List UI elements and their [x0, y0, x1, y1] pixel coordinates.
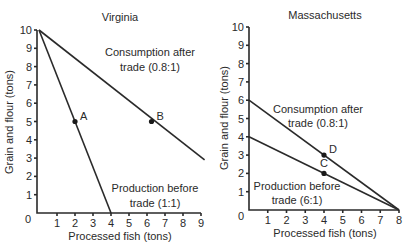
- point-label-a: A: [80, 110, 88, 122]
- y-tick-label: 6: [238, 94, 244, 106]
- y-tick-label: 4: [26, 134, 32, 146]
- origin-label: 0: [25, 213, 31, 225]
- origin-label: 0: [238, 210, 244, 222]
- production-label-line2: trade (1:1): [130, 197, 181, 209]
- chart-title-massachusetts: Massachusetts: [288, 9, 362, 21]
- x-tick-label: 4: [108, 217, 114, 229]
- point-b: [149, 119, 154, 124]
- production-label-line2: trade (6:1): [272, 194, 323, 206]
- y-tick-label: 3: [26, 152, 32, 164]
- x-tick-label: 6: [358, 214, 364, 226]
- y-tick-label: 9: [238, 39, 244, 51]
- x-axis-ticks: 12345678: [265, 210, 402, 226]
- x-tick-label: 9: [198, 217, 204, 229]
- production-label-line1: Production before: [112, 182, 199, 194]
- x-tick-label: 8: [396, 214, 402, 226]
- y-tick-label: 10: [232, 21, 244, 33]
- y-axis-title: Grain and flour (tons): [218, 66, 230, 170]
- y-tick-label: 9: [26, 42, 32, 54]
- x-axis-title: Processed fish (tons): [68, 230, 171, 242]
- x-tick-label: 7: [377, 214, 383, 226]
- x-axis-title: Processed fish (tons): [273, 227, 376, 239]
- point-label-b: B: [157, 110, 164, 122]
- consumption-label-line1: Consumption after: [273, 103, 363, 115]
- y-tick-label: 5: [26, 116, 32, 128]
- y-tick-label: 8: [26, 61, 32, 73]
- chart-canvas: Virginia 12345678910 123456789 AB Consum…: [0, 0, 414, 251]
- point-a: [72, 119, 77, 124]
- x-tick-label: 6: [144, 217, 150, 229]
- x-tick-label: 4: [321, 214, 327, 226]
- y-axis-ticks: 12345678910: [20, 24, 37, 201]
- y-tick-label: 8: [238, 58, 244, 70]
- y-tick-label: 7: [26, 79, 32, 91]
- y-tick-label: 1: [26, 189, 32, 201]
- x-tick-label: 3: [90, 217, 96, 229]
- point-c: [321, 171, 326, 176]
- y-tick-label: 4: [238, 131, 244, 143]
- x-tick-label: 7: [162, 217, 168, 229]
- consumption-label-line2: trade (0.8:1): [288, 117, 348, 129]
- x-tick-label: 1: [54, 217, 60, 229]
- y-tick-label: 1: [238, 186, 244, 198]
- point-label-d: D: [329, 143, 337, 155]
- data-markers: DC: [320, 143, 337, 176]
- production-label-line1: Production before: [254, 180, 341, 192]
- x-tick-label: 2: [283, 214, 289, 226]
- y-axis-title: Grain and flour (tons): [3, 70, 15, 174]
- consumption-label-line2: trade (0.8:1): [120, 61, 180, 73]
- y-tick-label: 2: [238, 167, 244, 179]
- y-axis-ticks: 12345678910: [232, 21, 249, 198]
- x-tick-label: 5: [340, 214, 346, 226]
- virginia-chart: Virginia 12345678910 123456789 AB Consum…: [3, 11, 205, 242]
- y-tick-label: 3: [238, 149, 244, 161]
- x-tick-label: 5: [126, 217, 132, 229]
- y-tick-label: 10: [20, 24, 32, 36]
- x-tick-label: 3: [302, 214, 308, 226]
- x-axis-ticks: 123456789: [54, 213, 204, 229]
- y-tick-label: 5: [238, 113, 244, 125]
- x-tick-label: 8: [180, 217, 186, 229]
- consumption-label-line1: Consumption after: [105, 46, 195, 58]
- chart-title-virginia: Virginia: [102, 11, 139, 23]
- y-tick-label: 6: [26, 97, 32, 109]
- x-tick-label: 2: [72, 217, 78, 229]
- y-tick-label: 7: [238, 76, 244, 88]
- massachusetts-chart: Massachusetts 12345678910 12345678 DC Co…: [218, 9, 402, 239]
- y-tick-label: 2: [26, 170, 32, 182]
- point-label-c: C: [320, 157, 328, 169]
- x-tick-label: 1: [265, 214, 271, 226]
